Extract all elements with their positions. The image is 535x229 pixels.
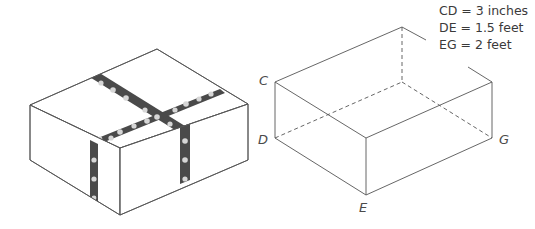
edge-c-front	[275, 82, 366, 138]
measurement-eg: EG = 2 feet	[439, 36, 528, 53]
edge-de	[275, 138, 366, 195]
measurements-legend: CD = 3 inches DE = 1.5 feet EG = 2 feet	[439, 2, 528, 53]
vertex-label-g: G	[499, 133, 509, 146]
vertex-label-c: C	[259, 74, 268, 87]
edge-eg	[366, 138, 492, 195]
flap-back	[402, 27, 426, 40]
edge-front-right-top	[366, 82, 492, 138]
vertex-label-d: D	[258, 133, 268, 146]
vertex-label-e: E	[359, 201, 367, 214]
edge-c-back	[275, 27, 402, 82]
flap-right	[468, 67, 492, 82]
measurement-de: DE = 1.5 feet	[439, 19, 528, 36]
measurement-cd: CD = 3 inches	[439, 2, 528, 19]
ribbon-right-face	[180, 124, 190, 184]
gift-box	[30, 49, 248, 215]
